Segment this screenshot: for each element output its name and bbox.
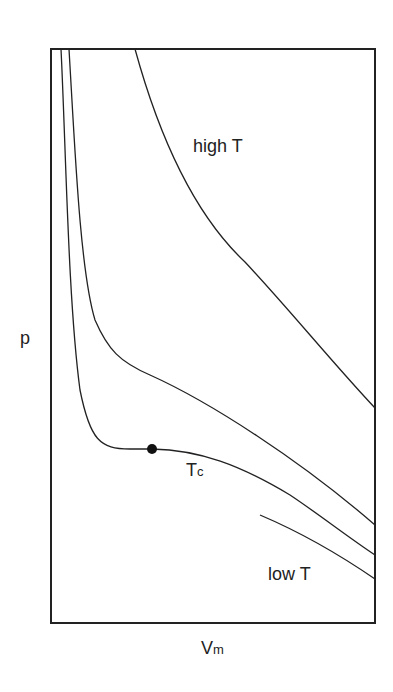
- intermediate-t-curve: [69, 49, 375, 525]
- tc-label-main: T: [186, 460, 197, 480]
- low-t-label: low T: [268, 564, 311, 585]
- x-axis-label: Vm: [201, 638, 224, 659]
- tc-curve: [61, 49, 375, 555]
- x-axis-label-main: V: [201, 638, 213, 658]
- high-t-label: high T: [193, 136, 243, 157]
- tc-label: Tc: [186, 460, 204, 481]
- y-axis-label: p: [20, 328, 30, 349]
- plot-area: [0, 0, 393, 692]
- x-axis-label-sub: m: [213, 642, 224, 657]
- critical-point-marker: [147, 444, 157, 454]
- tc-label-sub: c: [197, 464, 204, 479]
- high-t-curve: [135, 49, 375, 408]
